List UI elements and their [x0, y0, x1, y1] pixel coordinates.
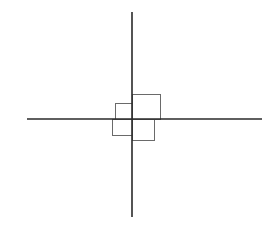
quadrant-diagram — [0, 0, 277, 239]
quadrant-top-left-box — [116, 104, 133, 120]
quadrant-bottom-right-box — [133, 120, 155, 141]
quadrant-top-right-box — [133, 95, 161, 120]
quadrant-boxes — [113, 95, 161, 141]
quadrant-bottom-left-box — [113, 120, 133, 136]
